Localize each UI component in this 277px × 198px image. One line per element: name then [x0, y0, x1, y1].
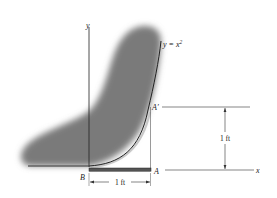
point-b-label: B: [80, 173, 85, 182]
x-axis-label: x: [255, 166, 260, 175]
y-axis-label: y: [85, 21, 90, 30]
dim-arrow-right: [146, 181, 150, 184]
bar-ba: [89, 168, 151, 171]
curve-exponent: 2: [180, 39, 183, 45]
curve-equation-label: y = x2: [162, 39, 183, 49]
point-a-prime-label: A′: [151, 103, 159, 112]
diagram-canvas: y y = x2 A′ 1 ft x A B 1 ft: [0, 0, 277, 198]
dim-arrow-down: [224, 165, 227, 169]
point-a-label: A: [153, 167, 159, 176]
horizontal-dimension-label: 1 ft: [115, 178, 126, 187]
dim-arrow-up: [224, 108, 227, 112]
dim-arrow-left: [90, 181, 94, 184]
shaded-swept-region: [21, 26, 161, 166]
vertical-dimension-label: 1 ft: [220, 134, 231, 143]
